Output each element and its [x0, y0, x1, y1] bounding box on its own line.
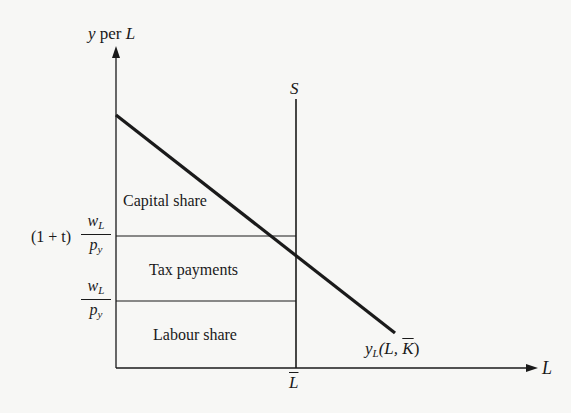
- y-axis-arrow-icon: [112, 46, 120, 58]
- net-wage-fraction: wL py: [81, 278, 111, 320]
- product-args-close: ): [414, 339, 420, 358]
- product-var: y: [365, 339, 373, 358]
- marginal-product-line: [116, 115, 395, 333]
- y-axis-label-text: per: [96, 24, 126, 43]
- product-args-open: (L,: [379, 339, 403, 358]
- marginal-product-label: yL(L, K): [365, 340, 419, 359]
- x-axis-label: L: [542, 359, 552, 377]
- net-wage-numerator: wL: [88, 278, 105, 299]
- gross-wage-prefix: (1 + t): [31, 229, 71, 245]
- net-wage-denominator: py: [90, 300, 103, 320]
- y-axis-label-var: y: [88, 24, 96, 43]
- y-axis-label-unit: L: [126, 24, 135, 43]
- x-axis-arrow-icon: [526, 364, 538, 372]
- tax-payments-label: Tax payments: [149, 262, 238, 278]
- product-args-k: K: [402, 339, 413, 358]
- gross-wage-prefix-text: (1 + t): [31, 228, 71, 245]
- y-axis-label: y per L: [88, 25, 135, 42]
- gross-wage-denominator: py: [90, 235, 103, 255]
- supply-label: S: [290, 80, 299, 97]
- gross-wage-numerator: wL: [88, 213, 105, 234]
- x-tick-l-bar: L: [289, 374, 298, 391]
- diagram-canvas: [0, 0, 571, 413]
- gross-wage-fraction: wL py: [81, 213, 111, 255]
- capital-share-label: Capital share: [123, 193, 207, 209]
- labour-share-label: Labour share: [153, 327, 237, 343]
